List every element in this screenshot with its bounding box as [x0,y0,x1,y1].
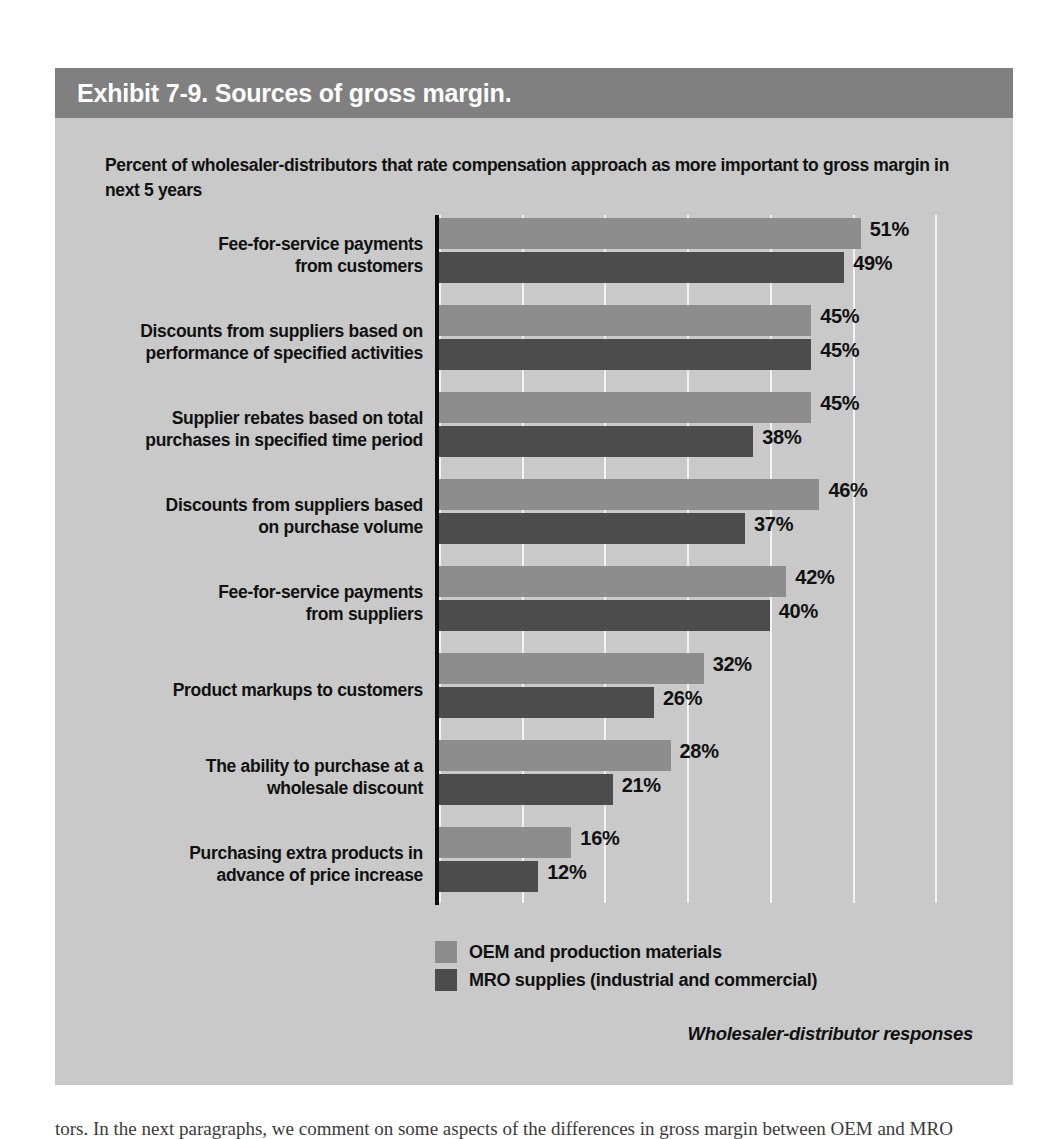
bar-value-label: 21% [622,774,661,797]
legend-label: OEM and production materials [469,942,722,963]
bar-group: Product markups to customers32%26% [55,650,1013,737]
chart-legend: OEM and production materialsMRO supplies… [435,938,817,994]
bar-group: Fee-for-service paymentsfrom customers51… [55,215,1013,302]
bar [439,513,745,544]
bar [439,566,786,597]
bar-group: The ability to purchase at awholesale di… [55,737,1013,824]
category-label: Fee-for-service paymentsfrom customers [73,233,423,277]
legend-item[interactable]: OEM and production materials [435,938,817,966]
bar-value-label: 40% [779,600,818,623]
page-body-text-fragment: tors. In the next paragraphs, we comment… [55,1118,995,1139]
bar-value-label: 37% [754,513,793,536]
bar [439,426,753,457]
category-label: Purchasing extra products inadvance of p… [73,842,423,886]
source-note: Wholesaler-distributor responses [688,1023,973,1045]
exhibit-title: Exhibit 7-9. Sources of gross margin. [77,79,511,108]
category-label: Supplier rebates based on totalpurchases… [73,407,423,451]
bar [439,827,571,858]
legend-label: MRO supplies (industrial and commercial) [469,970,817,991]
value-axis-line [435,215,439,905]
category-label: Discounts from suppliers based onperform… [73,320,423,364]
bar [439,479,819,510]
category-label: Fee-for-service paymentsfrom suppliers [73,581,423,625]
bar-value-label: 38% [762,426,801,449]
bar [439,600,770,631]
bar-groups: Fee-for-service paymentsfrom customers51… [55,215,1013,905]
bar-value-label: 28% [680,740,719,763]
bar-value-label: 45% [820,339,859,362]
bar-group: Discounts from suppliers basedon purchas… [55,476,1013,563]
bar-value-label: 49% [853,252,892,275]
bar-value-label: 32% [713,653,752,676]
bar [439,774,613,805]
bar-value-label: 26% [663,687,702,710]
bar-value-label: 16% [580,827,619,850]
legend-item[interactable]: MRO supplies (industrial and commercial) [435,966,817,994]
bar-group: Fee-for-service paymentsfrom suppliers42… [55,563,1013,650]
plot-area: Fee-for-service paymentsfrom customers51… [55,215,1013,905]
bar-value-label: 46% [828,479,867,502]
bar [439,687,654,718]
bar-group: Purchasing extra products inadvance of p… [55,824,1013,911]
bar-value-label: 45% [820,305,859,328]
bar-group: Discounts from suppliers based onperform… [55,302,1013,389]
bar [439,861,538,892]
exhibit-panel: Exhibit 7-9. Sources of gross margin. Pe… [55,68,1013,1085]
bar-value-label: 45% [820,392,859,415]
bar-value-label: 42% [795,566,834,589]
category-label: The ability to purchase at awholesale di… [73,755,423,799]
bar-value-label: 12% [547,861,586,884]
bar-value-label: 51% [870,218,909,241]
bar [439,252,844,283]
bar [439,392,811,423]
exhibit-header-bar: Exhibit 7-9. Sources of gross margin. [55,68,1013,118]
category-label: Discounts from suppliers basedon purchas… [73,494,423,538]
chart-subtitle: Percent of wholesaler-distributors that … [105,153,985,203]
legend-swatch-icon [435,969,457,991]
bar [439,740,671,771]
bar-group: Supplier rebates based on totalpurchases… [55,389,1013,476]
bar [439,653,704,684]
legend-swatch-icon [435,941,457,963]
category-label: Product markups to customers [73,679,423,701]
bar [439,218,861,249]
bar [439,305,811,336]
bar [439,339,811,370]
